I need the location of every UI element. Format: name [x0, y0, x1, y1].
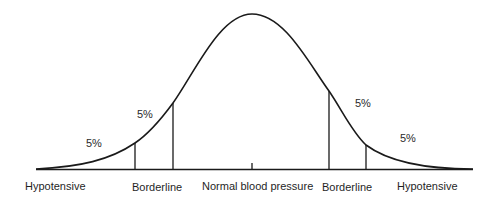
- label-left-hypotensive: Hypotensive: [25, 180, 86, 192]
- label-normal-blood-pressure: Normal blood pressure: [202, 180, 313, 192]
- left-outer-percentage: 5%: [86, 137, 102, 149]
- label-right-hypotensive: Hypotensive: [397, 180, 458, 192]
- left-inner-percentage: 5%: [137, 108, 153, 120]
- label-right-borderline: Borderline: [322, 181, 372, 193]
- right-outer-percentage: 5%: [400, 132, 416, 144]
- label-left-borderline: Borderline: [132, 181, 182, 193]
- bell-curve-diagram: [0, 0, 498, 201]
- right-inner-percentage: 5%: [355, 97, 371, 109]
